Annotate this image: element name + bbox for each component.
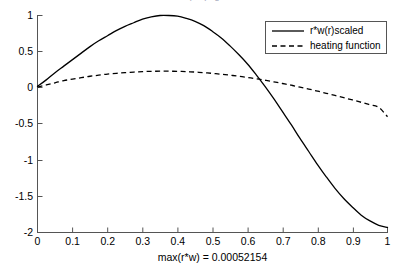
- x-tick-label: 0.3: [135, 236, 150, 246]
- x-tick-label: 0.9: [346, 236, 361, 246]
- series-line-heating-function: [38, 71, 388, 117]
- y-tick-label: -1.5: [15, 191, 33, 201]
- x-axis-ticks: [38, 228, 388, 233]
- x-tick-label: 1: [385, 236, 391, 246]
- legend-label: heating function: [310, 41, 381, 51]
- x-axis-tick-labels: 0 0.1 0.2 0.3 0.4 0.5 0.6 0.7 0.8 0.9 1: [0, 236, 404, 250]
- legend-box: r*w(r)scaled heating function: [265, 21, 387, 54]
- x-tick-label: 0: [35, 236, 41, 246]
- x-tick-label: 0.4: [171, 236, 186, 246]
- legend-sample-dashed-line: [271, 41, 305, 51]
- x-tick-label: 0.2: [100, 236, 115, 246]
- y-tick-label: -0.5: [15, 118, 33, 128]
- figure-container: max(r*w) figure: [0, 0, 404, 271]
- x-tick-label: 0.6: [241, 236, 256, 246]
- y-tick-label: -1: [24, 155, 33, 165]
- x-tick-label: 0.1: [65, 236, 80, 246]
- y-tick-label: 0: [27, 82, 33, 92]
- y-axis-tick-labels: 1 0.5 0 -0.5 -1 -1.5 -2: [0, 0, 33, 271]
- legend-sample-solid-line: [271, 26, 305, 36]
- x-axis-label: max(r*w) = 0.00052154: [37, 251, 388, 263]
- y-tick-label: 1: [27, 10, 33, 20]
- x-tick-label: 0.7: [276, 236, 291, 246]
- legend-label: r*w(r)scaled: [310, 26, 363, 36]
- y-axis-ticks: [38, 16, 43, 233]
- legend-entry-dashed: heating function: [266, 38, 388, 53]
- y-tick-label: 0.5: [18, 46, 33, 56]
- legend-entry-solid: r*w(r)scaled: [266, 23, 388, 38]
- x-tick-label: 0.5: [206, 236, 221, 246]
- x-tick-label: 0.8: [311, 236, 326, 246]
